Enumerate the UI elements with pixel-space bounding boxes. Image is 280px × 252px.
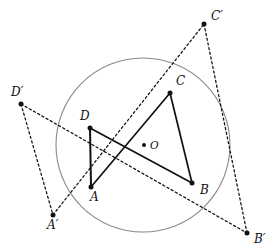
vertex-label-B: B: [199, 183, 209, 197]
vertex-label-O: O: [150, 139, 159, 151]
vertex-label-Bp: B′: [253, 232, 266, 246]
vertex-dot-D: [88, 126, 93, 131]
figure-background: [0, 0, 280, 252]
vertex-dot-B: [190, 181, 195, 186]
vertex-label-D: D: [79, 109, 90, 123]
vertex-dot-Ap: [51, 213, 56, 218]
vertex-dot-C: [168, 91, 173, 96]
vertex-label-Ap: A′: [46, 218, 59, 232]
vertex-dot-Cp: [202, 22, 207, 27]
vertex-label-A: A: [89, 190, 99, 204]
vertex-dot-Dp: [19, 102, 24, 107]
vertex-dot-Bp: [245, 231, 250, 236]
vertex-dot-O: [142, 143, 146, 147]
vertex-label-Cp: C′: [211, 9, 223, 23]
edge-A-D: [90, 128, 91, 187]
vertex-label-Dp: D′: [10, 85, 24, 99]
vertex-label-C: C: [176, 74, 185, 88]
geometry-figure: ABCDOA′B′C′D′: [0, 0, 280, 252]
vertex-dot-A: [89, 185, 94, 190]
